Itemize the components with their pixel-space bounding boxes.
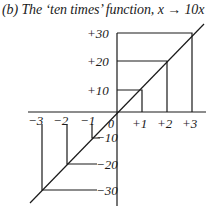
- y-label-plus-20: +20: [87, 54, 109, 69]
- y-label-plus-10: +10: [87, 83, 109, 98]
- x-label-minus-3: −3: [28, 113, 44, 128]
- guide-minus-3: [42, 124, 97, 190]
- guide-plus-3: [117, 33, 192, 112]
- x-label-plus-3: +3: [182, 116, 198, 131]
- x-label-minus-1: −1: [80, 113, 95, 128]
- y-label-minus-30: −30: [96, 183, 118, 198]
- x-label-plus-1: +1: [132, 116, 147, 131]
- x-label-plus-2: +2: [157, 116, 173, 131]
- y-label-minus-10: −10: [96, 130, 118, 145]
- y-label-minus-20: −20: [96, 157, 118, 172]
- x-label-minus-2: −2: [53, 113, 69, 128]
- y-label-plus-30: +30: [87, 26, 109, 41]
- ten-times-diagram: +30 +20 +10 +1 +2 +3 −3 −2 −1 0 −10 −20 …: [0, 0, 214, 216]
- origin-label: 0: [108, 117, 114, 131]
